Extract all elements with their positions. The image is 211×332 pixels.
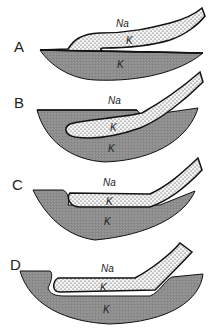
diagram-canvas: A Na K K B Na K K C Na K K D Na K K	[0, 0, 211, 332]
na-label: Na	[101, 263, 114, 274]
na-label: Na	[108, 95, 121, 106]
panel-letter: D	[10, 256, 21, 273]
panel-a: A Na K K	[14, 8, 205, 80]
stippled-k-tongue	[40, 8, 205, 53]
panel-c: C Na K K	[12, 158, 202, 240]
na-label: Na	[116, 18, 129, 29]
panel-letter: C	[12, 176, 23, 193]
panel-letter: A	[14, 38, 24, 55]
panel-b: B Na K K	[14, 72, 203, 162]
na-label: Na	[103, 177, 116, 188]
panel-d: D Na K K	[10, 243, 203, 324]
panel-letter: B	[14, 94, 24, 111]
